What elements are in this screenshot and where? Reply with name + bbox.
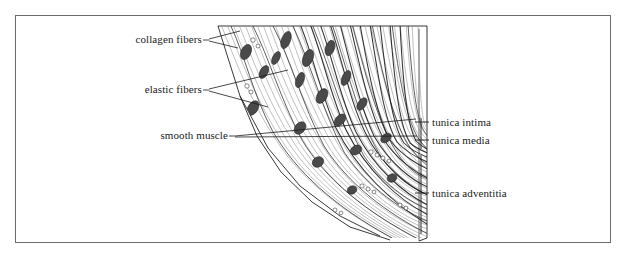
- vessel-wall-diagram: [0, 0, 627, 259]
- label-smooth-muscle: smooth muscle: [142, 130, 228, 141]
- leader-elastic-fibers: [203, 70, 288, 107]
- tissue-block-outline: [218, 26, 427, 241]
- figure-root: collagen fibers elastic fibers smooth mu…: [0, 0, 627, 259]
- label-tunica-adventitia: tunica adventitia: [432, 188, 507, 199]
- label-elastic-fibers: elastic fibers: [128, 84, 202, 95]
- label-tunica-media: tunica media: [432, 135, 490, 146]
- label-tunica-intima: tunica intima: [432, 117, 491, 128]
- label-collagen-fibers: collagen fibers: [122, 34, 202, 45]
